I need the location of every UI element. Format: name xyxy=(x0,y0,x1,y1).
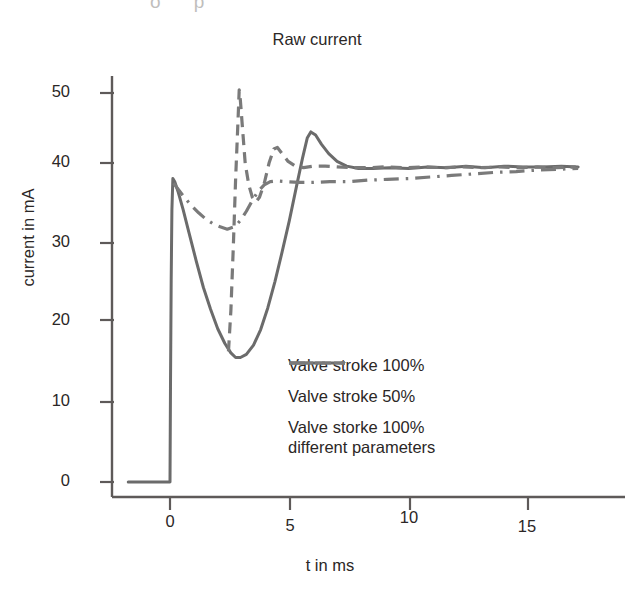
legend-label-valve-stroke-100-different-parameters: Valve storke 100% different parameters xyxy=(288,417,435,457)
plot-canvas xyxy=(0,0,634,595)
legend-item-valve-stroke-50[interactable]: Valve stroke 50% xyxy=(288,386,548,406)
legend-label-valve-stroke-50: Valve stroke 50% xyxy=(288,386,415,406)
legend-item-valve-stroke-100-different-parameters[interactable]: Valve storke 100% different parameters xyxy=(288,417,548,457)
chart-legend: Valve stroke 100% Valve stroke 50% Valve… xyxy=(288,355,548,469)
series-line-valve-stroke-50 xyxy=(228,90,575,351)
chart-figure: o p Raw current current in mA t in ms 50… xyxy=(0,0,634,595)
legend-label-line-2: different parameters xyxy=(288,437,435,457)
legend-swatch-dashdot xyxy=(288,355,346,371)
x-axis-ticks xyxy=(170,497,528,510)
legend-label-line-1: Valve storke 100% xyxy=(288,417,435,437)
